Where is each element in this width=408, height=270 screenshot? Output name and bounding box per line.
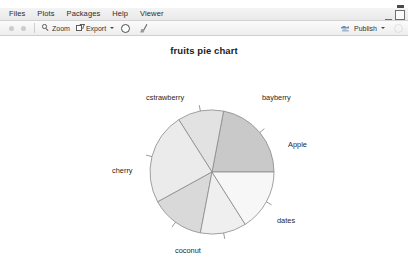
zoom-button-label: Zoom [52,25,70,32]
menubar: Files Plots Packages Help Viewer [0,8,408,21]
pie-leader-line [172,222,176,227]
pie-leader-line [266,202,271,205]
remove-plot-icon[interactable] [121,24,130,33]
next-plot-icon[interactable] [18,23,29,34]
window-titlebar-strip [0,0,408,8]
pie-chart-svg: bayberrycstrawberrycherrycoconutdatesApp… [0,37,408,270]
close-icon[interactable] [397,5,404,8]
pie-leader-line [260,129,265,133]
pie-slice-label: cstrawberry [146,93,184,102]
minimize-icon[interactable] [385,13,392,20]
pie-slice-label: cherry [112,166,133,175]
previous-plot-icon[interactable] [6,23,17,34]
window-controls [385,10,405,20]
publish-chevron-down-icon [381,27,385,29]
chevron-down-icon [110,27,114,29]
publish-button[interactable]: Publish [338,22,388,35]
plot-canvas: fruits pie chart bayberrycstrawberrycher… [0,37,408,270]
pie-slice-group [150,110,274,234]
pie-leader-line [224,233,225,239]
pie-slice-label: Apple [288,140,307,149]
pie-leader-line [199,105,200,111]
pie-slice-label: dates [277,216,295,225]
zoom-button[interactable]: Zoom [39,22,73,35]
refresh-icon[interactable] [394,24,403,33]
pie-slice-label: bayberry [262,93,291,102]
menu-item-packages[interactable]: Packages [61,8,107,20]
publish-button-label: Publish [354,25,377,32]
menu-item-viewer[interactable]: Viewer [134,8,169,20]
menu-item-files[interactable]: Files [0,8,31,20]
maximize-icon[interactable] [395,10,405,20]
toolbar-separator-1 [34,23,35,33]
export-icon [76,24,84,32]
nav-group [6,23,30,34]
menu-item-plots[interactable]: Plots [31,8,60,20]
export-button[interactable]: Export [73,22,117,35]
export-button-label: Export [86,25,106,32]
clear-all-plots-icon[interactable] [139,23,149,33]
pie-leader-line [146,155,152,156]
magnifier-icon [42,24,50,32]
publish-icon [341,24,350,33]
toolbar-right-group: Publish [338,22,408,35]
rstudio-plots-window: Files Plots Packages Help Viewer Zoom Ex… [0,0,408,270]
pie-slice-label: coconut [175,246,201,255]
plots-toolbar: Zoom Export Publish [0,21,408,36]
menu-item-help[interactable]: Help [106,8,134,20]
